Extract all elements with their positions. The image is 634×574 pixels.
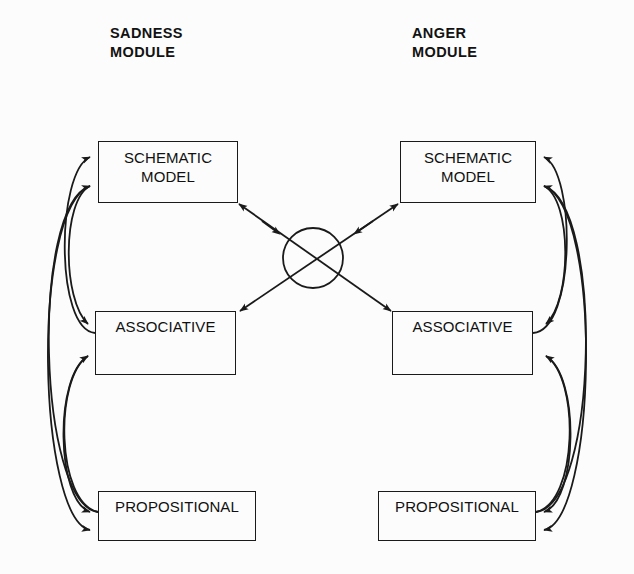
node-left-propositional[interactable]: PROPOSITIONAL — [98, 491, 256, 541]
edge-left-prop-to-assoc — [64, 356, 98, 512]
node-left-schematic-model-label: SCHEMATIC MODEL — [99, 148, 237, 186]
node-left-propositional-label: PROPOSITIONAL — [99, 497, 255, 516]
crossing-circle — [283, 228, 343, 288]
node-left-associative-label: ASSOCIATIVE — [96, 317, 235, 336]
node-right-associative-label: ASSOCIATIVE — [393, 317, 532, 336]
node-left-associative[interactable]: ASSOCIATIVE — [95, 311, 236, 375]
node-left-schematic-model[interactable]: SCHEMATIC MODEL — [98, 141, 238, 203]
edge-diagonal-nw-se-midarrow — [262, 221, 277, 232]
edge-left-assoc-to-prop — [63, 356, 90, 512]
module-title-anger: ANGER MODULE — [412, 24, 477, 62]
edge-right-assoc-to-schematic — [533, 157, 567, 333]
diagram-connectors-layer — [0, 0, 634, 574]
node-right-schematic-model-label: SCHEMATIC MODEL — [401, 148, 535, 186]
edge-diagonal-nw-se — [239, 204, 391, 311]
edge-right-prop-to-assoc — [536, 356, 570, 512]
node-right-propositional[interactable]: PROPOSITIONAL — [378, 491, 536, 541]
edge-right-prop-to-schematic — [536, 186, 586, 512]
module-title-sadness: SADNESS MODULE — [110, 24, 183, 62]
edge-diagonal-ne-sw — [240, 204, 398, 311]
edge-diagonal-ne-sw-midarrow — [357, 221, 373, 232]
node-right-associative[interactable]: ASSOCIATIVE — [392, 311, 533, 375]
edge-right-schematic-to-assoc — [544, 186, 565, 324]
module-interaction-diagram: SADNESS MODULE ANGER MODULE SCHEMATIC MO… — [0, 0, 634, 574]
node-right-schematic-model[interactable]: SCHEMATIC MODEL — [400, 141, 536, 203]
node-right-propositional-label: PROPOSITIONAL — [379, 497, 535, 516]
edge-right-assoc-to-prop — [544, 356, 571, 512]
